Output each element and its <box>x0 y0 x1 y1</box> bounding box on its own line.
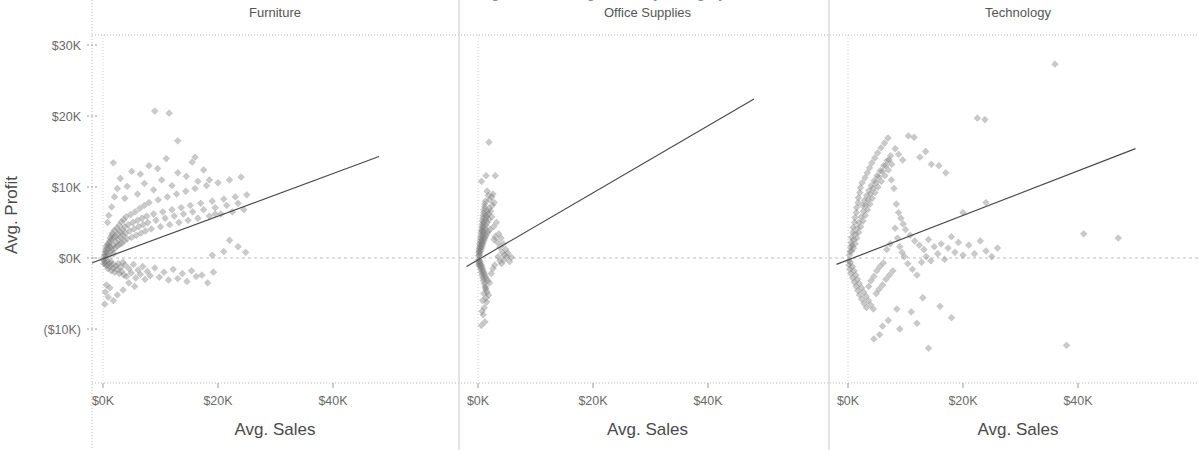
scatter-point <box>918 259 925 266</box>
scatter-point <box>870 336 877 343</box>
y-tick-label: $20K <box>52 110 82 124</box>
scatter-point <box>193 273 200 280</box>
scatter-point <box>185 217 192 224</box>
scatter-facet-chart: $0K$20K$40KFurnitureAvg. Sales$0K$20K$40… <box>0 0 1199 450</box>
scatter-point <box>215 179 222 186</box>
x-axis-title: Avg. Sales <box>235 420 316 439</box>
y-tick-label: $30K <box>52 39 82 53</box>
scatter-point <box>121 195 128 202</box>
scatter-point <box>153 217 160 224</box>
scatter-point <box>194 178 201 185</box>
scatter-point <box>908 309 915 316</box>
scatter-point <box>226 237 233 244</box>
scatter-point <box>171 213 178 220</box>
scatter-point <box>893 201 900 208</box>
y-axis-title: Avg. Profit <box>2 176 21 254</box>
scatter-point <box>169 206 176 213</box>
scatter-point <box>931 243 938 250</box>
scatter-point <box>166 221 173 228</box>
points-group <box>92 108 380 308</box>
x-tick-label: $0K <box>467 394 490 408</box>
scatter-point <box>169 182 176 189</box>
scatter-point <box>909 266 916 273</box>
scatter-point <box>478 178 485 185</box>
scatter-point <box>117 175 124 182</box>
scatter-point <box>922 148 929 155</box>
scatter-point <box>883 246 890 253</box>
scatter-point <box>983 248 990 255</box>
scatter-point <box>904 260 911 267</box>
scatter-point <box>158 177 165 184</box>
scatter-point <box>110 297 117 304</box>
scatter-point <box>150 211 157 218</box>
scatter-point <box>941 256 948 263</box>
scatter-point <box>876 331 883 338</box>
scatter-point <box>104 219 111 226</box>
scatter-point <box>937 303 944 310</box>
scatter-point <box>921 246 928 253</box>
scatter-point <box>174 169 181 176</box>
scatter-point <box>942 169 949 176</box>
panel-header-technology: Technology <box>985 5 1051 20</box>
scatter-point <box>955 239 962 246</box>
points-group <box>837 61 1136 352</box>
points-group <box>467 99 755 329</box>
scatter-point <box>174 275 181 282</box>
scatter-point <box>159 208 166 215</box>
x-tick-label: $40K <box>693 394 723 408</box>
scatter-point <box>891 185 898 192</box>
scatter-point <box>916 154 923 161</box>
y-tick-label: $10K <box>52 181 82 195</box>
scatter-point <box>188 267 195 274</box>
panel-header-furniture: Furniture <box>249 5 301 20</box>
panel-office-supplies: $0K$20K$40KOffice SuppliesAvg. Sales <box>459 0 827 450</box>
scatter-point <box>220 248 227 255</box>
scatter-point <box>242 249 249 256</box>
scatter-point <box>905 132 912 139</box>
scatter-point <box>184 278 191 285</box>
scatter-point <box>892 145 899 152</box>
x-axis-title: Avg. Sales <box>978 420 1059 439</box>
scatter-point <box>209 198 216 205</box>
scatter-point <box>988 253 995 260</box>
scatter-point <box>137 171 144 178</box>
scatter-point <box>235 243 242 250</box>
scatter-point <box>223 202 230 209</box>
scatter-point <box>945 245 952 252</box>
scatter-point <box>146 162 153 169</box>
scatter-point <box>925 236 932 243</box>
scatter-point <box>189 208 196 215</box>
gridlines <box>92 0 1199 450</box>
scatter-point <box>157 223 164 230</box>
scatter-point <box>923 253 930 260</box>
scatter-point <box>165 277 172 284</box>
scatter-point <box>911 238 918 245</box>
scatter-point <box>194 215 201 222</box>
scatter-point <box>134 191 141 198</box>
panel-furniture: $0K$20K$40KFurnitureAvg. Sales <box>92 5 458 439</box>
scatter-point <box>156 274 163 281</box>
scatter-point <box>151 265 158 272</box>
scatter-point <box>911 134 918 141</box>
chart-canvas: $0K$20K$40KFurnitureAvg. Sales$0K$20K$40… <box>0 0 1199 450</box>
scatter-point <box>914 272 921 279</box>
scatter-point <box>176 219 183 226</box>
scatter-point <box>182 188 189 195</box>
y-tick-label: ($10K) <box>43 323 81 337</box>
scatter-point <box>483 172 490 179</box>
scatter-point <box>174 137 181 144</box>
scatter-point <box>895 151 902 158</box>
scatter-point <box>899 157 906 164</box>
scatter-point <box>928 161 935 168</box>
x-tick-label: $20K <box>578 394 608 408</box>
scatter-point <box>981 116 988 123</box>
scatter-point <box>952 249 959 256</box>
scatter-point <box>1052 61 1059 68</box>
scatter-point <box>154 165 161 172</box>
scatter-point <box>1063 342 1070 349</box>
panel-header-office-supplies: Office Supplies <box>604 5 692 20</box>
scatter-point <box>105 212 112 219</box>
scatter-point <box>226 177 233 184</box>
scatter-point <box>885 317 892 324</box>
scatter-point <box>120 287 127 294</box>
